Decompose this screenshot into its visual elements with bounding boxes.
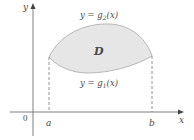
lower-curve-label-arg: (x): [107, 78, 118, 88]
x-axis-arrow-icon: [178, 110, 184, 115]
x-axis-label: x: [179, 115, 184, 125]
y-axis-label: y: [22, 2, 29, 12]
upper-curve-label-arg: (x): [107, 10, 118, 20]
bound-b-label: b: [149, 118, 155, 128]
origin-label: 0: [23, 113, 28, 123]
lower-curve-label: y = g1(x): [79, 78, 118, 89]
double-integral-region-diagram: y x 0 a b D y = g2(x) y = g1(x): [0, 0, 194, 140]
lower-curve-label-main: y = g: [79, 78, 103, 88]
region-label: D: [93, 45, 104, 58]
upper-curve-label-main: y = g: [79, 10, 103, 20]
bound-a-label: a: [46, 118, 51, 128]
y-axis-arrow-icon: [31, 3, 36, 9]
upper-curve-label: y = g2(x): [79, 10, 118, 21]
